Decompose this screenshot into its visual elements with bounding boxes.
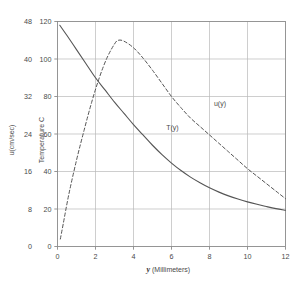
x-tick-label: 2: [94, 252, 98, 261]
y-tick-label-outer: 8: [28, 205, 32, 214]
chart-figure: 024681012 020406080100120 081624324048 T…: [0, 0, 303, 283]
x-tick-label: 8: [208, 252, 212, 261]
y-tick-label-outer: 24: [24, 130, 32, 139]
x-tick-label: 4: [132, 252, 136, 261]
y-axis-inner-title: Temperature C: [38, 117, 46, 163]
y-tick-label-outer: 16: [24, 167, 32, 176]
x-axis-title-unit: (Millimeters): [152, 266, 190, 274]
x-tick-label: 10: [244, 252, 252, 261]
curve-label-uy: u(y): [214, 100, 226, 108]
curve-label-Ty: T(y): [166, 124, 178, 132]
y-tick-label-inner: 120: [40, 17, 52, 26]
y-tick-label-inner: 20: [44, 205, 52, 214]
x-tick-label: 0: [56, 252, 60, 261]
y-tick-label-inner: 40: [44, 167, 52, 176]
y-tick-label-outer: 32: [24, 92, 32, 101]
chart-background: [0, 0, 303, 283]
y-tick-label-outer: 48: [24, 17, 32, 26]
boundary-layer-profile-chart: 024681012 020406080100120 081624324048 T…: [0, 0, 303, 283]
x-tick-label: 6: [170, 252, 174, 261]
y-tick-label-outer: 0: [28, 242, 32, 251]
y-tick-label-outer: 40: [24, 55, 32, 64]
y-tick-label-inner: 100: [40, 55, 52, 64]
x-tick-label: 12: [282, 252, 290, 261]
x-axis-title-variable: y: [145, 265, 150, 274]
y-tick-label-inner: 0: [48, 242, 52, 251]
y-tick-label-inner: 80: [44, 92, 52, 101]
y-axis-outer-title: u(cm/sec): [8, 125, 16, 156]
